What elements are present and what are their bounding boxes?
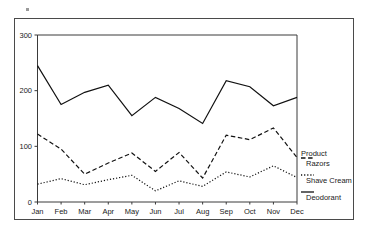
x-tick-label: Dec [290, 207, 304, 216]
series-line-deodorant [38, 66, 298, 124]
y-axis-tick-labels: 0100200300 [19, 31, 37, 207]
x-tick-label: Jul [174, 207, 184, 216]
chart-container: 0100200300 JanFebMarAprMayJunJulAugSepOc… [0, 0, 369, 238]
x-tick-label: Sep [220, 207, 233, 216]
series-line-shave-cream [38, 166, 298, 191]
chart-series-lines [38, 66, 298, 191]
x-tick-label: Mar [78, 207, 91, 216]
legend-label-deodorant: Deodorant [306, 193, 342, 202]
x-tick-label: Jan [31, 207, 43, 216]
y-tick-label: 200 [19, 86, 32, 95]
x-tick-label: Nov [267, 207, 281, 216]
y-tick-label: 0 [28, 198, 32, 207]
legend-title: Product [301, 149, 328, 158]
chart-legend: ProductRazorsShave CreamDeodorant [301, 149, 352, 202]
x-axis-tick-labels: JanFebMarAprMayJunJulAugSepOctNovDec [31, 202, 303, 216]
x-tick-label: Feb [55, 207, 68, 216]
legend-label-razors: Razors [306, 159, 330, 168]
x-tick-label: Apr [102, 207, 114, 216]
line-chart-plot: 0100200300 JanFebMarAprMayJunJulAugSepOc… [0, 0, 369, 238]
y-tick-label: 100 [19, 142, 32, 151]
series-line-razors [38, 128, 298, 178]
x-tick-label: Jun [149, 207, 161, 216]
legend-label-shave-cream: Shave Cream [306, 176, 352, 185]
x-tick-label: Aug [196, 207, 209, 216]
chart-axes [38, 35, 298, 202]
x-tick-label: Oct [244, 207, 257, 216]
x-tick-label: May [125, 207, 139, 216]
y-tick-label: 300 [19, 31, 32, 40]
